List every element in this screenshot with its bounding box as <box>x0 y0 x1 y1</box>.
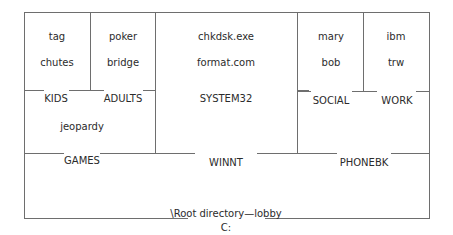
outer-bottom-wall-right <box>265 218 430 219</box>
file-tag: tag <box>49 31 65 43</box>
folder-label-system32: SYSTEM32 <box>200 93 253 105</box>
outer-right-wall <box>429 12 430 219</box>
social-work-divider <box>363 12 364 91</box>
file-mary: mary <box>318 31 344 43</box>
root-directory-label: \Root directory—lobby <box>170 208 281 220</box>
file-trw: trw <box>388 57 404 69</box>
file-chkdsk: chkdsk.exe <box>198 31 254 43</box>
file-jeopardy: jeopardy <box>60 121 104 133</box>
folder-label-work: WORK <box>381 95 412 107</box>
social-wall-right <box>352 91 377 92</box>
system32-stub-left <box>143 90 156 91</box>
file-bob: bob <box>322 57 341 69</box>
folder-label-kids: KIDS <box>44 93 68 105</box>
kids-wall-left <box>24 90 44 91</box>
winnt-phonebk-divider <box>297 12 298 154</box>
phonebk-wall-right <box>391 153 430 154</box>
file-ibm: ibm <box>387 31 406 43</box>
outer-top-wall <box>24 12 430 13</box>
games-wall-left <box>24 153 64 154</box>
kids-wall-right <box>69 90 104 91</box>
kids-adults-divider <box>90 12 91 91</box>
file-format: format.com <box>197 57 255 69</box>
folder-label-winnt: WINNT <box>209 157 243 169</box>
social-wall-left <box>297 91 311 92</box>
games-winnt-wall <box>100 153 195 154</box>
folder-label-phonebk: PHONEBK <box>340 157 389 169</box>
outer-bottom-wall-left <box>24 218 188 219</box>
drive-label: C: <box>221 222 231 234</box>
folder-label-adults: ADULTS <box>104 93 143 105</box>
folder-label-games: GAMES <box>64 155 100 167</box>
games-winnt-divider <box>155 12 156 154</box>
file-poker: poker <box>109 31 137 43</box>
work-wall-right <box>416 91 430 92</box>
file-bridge: bridge <box>107 57 139 69</box>
file-chutes: chutes <box>40 57 73 69</box>
outer-left-wall <box>24 12 25 219</box>
folder-label-social: SOCIAL <box>313 95 350 107</box>
winnt-phonebk-wall <box>257 153 337 154</box>
